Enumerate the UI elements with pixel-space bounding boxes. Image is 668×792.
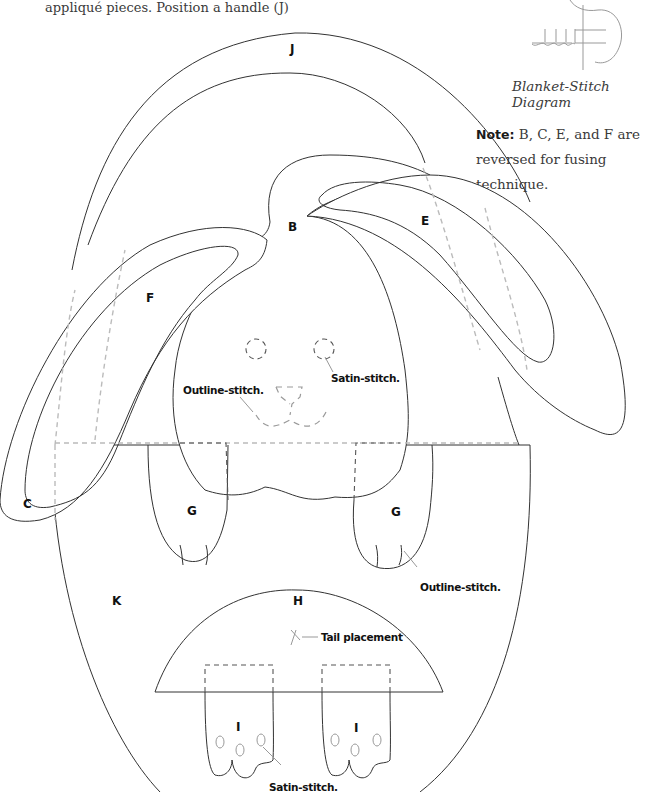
label-b: B [288, 220, 297, 234]
annotation-foot-satin-stitch: Satin-stitch. [269, 781, 338, 792]
basket-k [42, 445, 530, 792]
label-g-left: G [187, 504, 197, 518]
annotation-eye-satin-stitch: Satin-stitch. [331, 372, 400, 384]
blanket-stitch-icon [532, 0, 622, 70]
label-h: H [293, 594, 303, 608]
label-i-right: I [354, 721, 358, 735]
foot-i-left [205, 665, 281, 778]
label-k: K [112, 594, 122, 608]
annotation-nose-outline-stitch: Outline-stitch. [183, 384, 264, 396]
label-e: E [421, 214, 429, 228]
label-j: J [289, 42, 294, 56]
label-c: C [23, 497, 32, 511]
label-f: F [146, 291, 154, 305]
bunny-basket-pattern: J B E F C G G K H I I Satin-stitch. Outl… [0, 0, 668, 792]
label-g-right: G [391, 505, 401, 519]
tail-mark [291, 630, 300, 645]
annotation-paw-outline-stitch: Outline-stitch. [420, 581, 501, 593]
label-i-left: I [236, 720, 240, 734]
annotation-tail-placement: Tail placement [321, 631, 403, 643]
